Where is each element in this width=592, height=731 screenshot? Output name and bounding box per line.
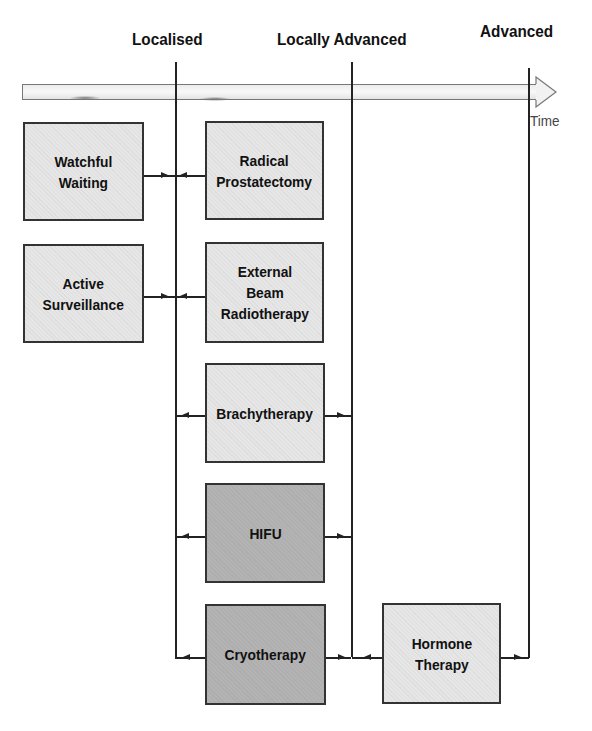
arrowhead-left-icon [180,293,187,299]
treatment-label: Active Surveillance [43,273,124,315]
arrowhead-right-icon [337,533,344,539]
stage-label-localised: Localised [132,30,203,50]
arrowhead-right-icon [161,172,168,178]
treatment-label: HIFU [249,523,281,544]
time-axis-label: Time [530,112,560,129]
treatment-box-external-beam-radiotherapy: External Beam Radiotherapy [205,242,324,343]
arrowhead-left-icon [182,533,189,539]
stage-line-localised [175,62,177,657]
treatment-box-brachytherapy: Brachytherapy [205,363,325,463]
arrowhead-left-icon [182,412,189,418]
treatment-label: Radical Prostatectomy [217,150,313,192]
arrowhead-left-icon [183,654,190,660]
treatment-label: Brachytherapy [217,403,314,424]
connector-brachytherapy-left [176,415,205,417]
treatment-label: Cryotherapy [225,644,306,665]
treatment-box-watchful-waiting: Watchful Waiting [23,122,144,221]
treatment-label: Watchful Waiting [55,151,113,193]
arrowhead-right-icon [338,654,345,660]
treatment-box-hifu: HIFU [205,483,325,583]
treatment-box-radical-prostatectomy: Radical Prostatectomy [205,121,324,220]
stage-line-advanced [528,68,530,658]
stage-label-advanced: Advanced [480,22,553,42]
arrowhead-right-icon [337,412,344,418]
stage-line-locally-advanced [351,62,353,657]
treatment-label: Hormone Therapy [411,633,472,675]
connector-hifu-left [176,536,205,538]
arrowhead-left-icon [364,654,371,660]
connector-cryotherapy-left [175,657,205,659]
treatment-box-cryotherapy: Cryotherapy [205,604,326,705]
treatment-box-hormone-therapy: Hormone Therapy [382,603,501,704]
arrowhead-right-icon [161,293,168,299]
arrowhead-left-icon [180,172,187,178]
treatment-label: External Beam Radiotherapy [220,261,308,324]
connector-active-surveillance [144,296,175,298]
timeline-arrowhead-icon [535,76,559,108]
treatment-box-active-surveillance: Active Surveillance [23,244,144,343]
connector-watchful-waiting [144,175,175,177]
arrowhead-right-icon [514,654,521,660]
stage-label-locally-advanced: Locally Advanced [277,30,407,50]
timeline-smudge [200,97,230,101]
timeline-smudge [70,96,100,100]
